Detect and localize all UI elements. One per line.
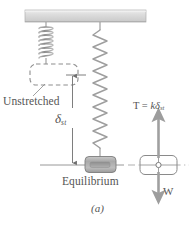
static-deflection-dimension — [66, 75, 86, 163]
zigzag-spring-stretched — [93, 22, 107, 157]
shaded-block-equilibrium — [85, 157, 116, 173]
equilibrium-label: Equilibrium — [62, 176, 119, 188]
dashed-block-unstretched-position — [30, 64, 78, 85]
coil-spring-unstretched — [39, 22, 53, 64]
delta-subscript: st — [61, 118, 66, 127]
figure-caption: (a) — [91, 203, 104, 214]
spring-mass-equilibrium-figure: Unstretched δst Equilibrium T = kδst W (… — [0, 0, 192, 225]
unstretched-label: Unstretched — [3, 96, 60, 108]
tension-prefix: T = — [133, 100, 150, 111]
tension-delta-subscript: st — [160, 104, 164, 111]
support-bar — [25, 10, 146, 22]
free-body-block — [140, 156, 177, 175]
weight-label: W — [163, 186, 173, 197]
static-deflection-label: δst — [55, 112, 66, 126]
tension-force-label: T = kδst — [133, 101, 164, 112]
